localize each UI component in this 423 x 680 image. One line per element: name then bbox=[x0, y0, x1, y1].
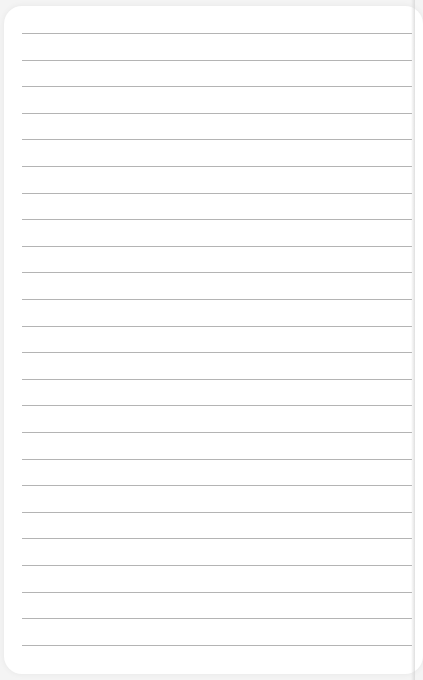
notepad-page[interactable] bbox=[4, 6, 423, 674]
ruled-line bbox=[22, 565, 412, 566]
ruled-line bbox=[22, 33, 412, 34]
ruled-line bbox=[22, 86, 412, 87]
ruled-line bbox=[22, 405, 412, 406]
ruled-line bbox=[22, 113, 412, 114]
page-edge bbox=[411, 0, 415, 680]
ruled-line bbox=[22, 326, 412, 327]
ruled-line bbox=[22, 60, 412, 61]
ruled-line bbox=[22, 512, 412, 513]
ruled-line bbox=[22, 379, 412, 380]
ruled-line bbox=[22, 352, 412, 353]
ruled-line bbox=[22, 592, 412, 593]
ruled-line bbox=[22, 645, 412, 646]
ruled-line bbox=[22, 139, 412, 140]
ruled-line bbox=[22, 299, 412, 300]
ruled-line bbox=[22, 193, 412, 194]
ruled-line bbox=[22, 485, 412, 486]
ruled-line bbox=[22, 219, 412, 220]
ruled-line bbox=[22, 166, 412, 167]
ruled-line bbox=[22, 246, 412, 247]
ruled-line bbox=[22, 272, 412, 273]
ruled-line bbox=[22, 459, 412, 460]
ruled-line bbox=[22, 618, 412, 619]
ruled-line bbox=[22, 432, 412, 433]
ruled-line bbox=[22, 538, 412, 539]
